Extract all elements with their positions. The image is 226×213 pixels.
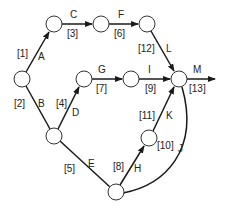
label-e: E (88, 158, 95, 169)
label-h: H (134, 163, 141, 174)
node-2 (46, 16, 62, 32)
label-d8: [8] (113, 161, 124, 172)
label-d2: [2] (14, 98, 25, 109)
label-m: M (193, 64, 201, 75)
edge-k (153, 87, 174, 131)
label-d7: [7] (96, 83, 107, 94)
label-a: A (38, 51, 45, 62)
label-c: C (70, 9, 77, 20)
label-l: L (166, 43, 172, 54)
label-d11: [11] (139, 110, 155, 121)
label-d12: [12] (138, 43, 155, 54)
node-5 (46, 128, 62, 144)
label-k: K (166, 110, 173, 121)
label-d5: [5] (64, 163, 75, 174)
node-1 (14, 71, 30, 87)
node-3 (93, 16, 109, 32)
label-b: B (38, 98, 45, 109)
label-j: J (178, 143, 183, 154)
node-8 (171, 71, 187, 87)
label-d10: [10] (157, 140, 174, 151)
label-d6: [6] (114, 28, 125, 39)
label-d9: [9] (145, 83, 156, 94)
label-f: F (118, 9, 124, 20)
label-d4: [4] (56, 98, 67, 109)
node-7 (123, 71, 139, 87)
node-10 (108, 184, 124, 200)
label-d13: [13] (189, 83, 206, 94)
node-6 (76, 71, 92, 87)
label-d3: [3] (67, 28, 78, 39)
network-diagram: A [1] B [2] C [3] F [6] L [12] G [7] I [… (0, 0, 226, 213)
label-d1: [1] (17, 48, 28, 59)
node-9 (141, 130, 157, 146)
label-d: D (72, 107, 79, 118)
label-i: I (148, 64, 151, 75)
label-g: G (98, 64, 106, 75)
node-4 (139, 16, 155, 32)
